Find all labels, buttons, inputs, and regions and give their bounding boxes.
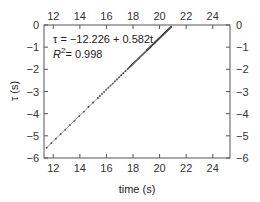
y-tick-label-left: −5 xyxy=(26,130,39,142)
x-tick-label-bottom: 12 xyxy=(47,162,59,174)
x-tick-label-top: 24 xyxy=(207,10,219,22)
x-tick-label-top: 16 xyxy=(100,10,112,22)
y-tick-label-left: −1 xyxy=(26,41,39,53)
x-tick-label-bottom: 20 xyxy=(153,162,165,174)
y-tick-label-left: −6 xyxy=(26,152,39,164)
y-tick-label-right: −3 xyxy=(236,86,249,98)
x-tick-label-bottom: 14 xyxy=(74,162,86,174)
y-tick-label-right: 0 xyxy=(236,19,242,31)
r-symbol: R xyxy=(53,48,61,60)
y-tick-label-left: 0 xyxy=(33,19,39,31)
y-tick-label-left: −4 xyxy=(26,108,39,120)
x-tick-label-top: 20 xyxy=(153,10,165,22)
x-tick-label-bottom: 22 xyxy=(180,162,192,174)
chart: 1212141416161818202022222424 00−1−1−2−2−… xyxy=(0,0,260,202)
y-tick-label-right: −2 xyxy=(236,63,249,75)
y-tick-label-right: −6 xyxy=(236,152,249,164)
y-tick-label-right: −4 xyxy=(236,108,249,120)
y-axis-label: τ (s) xyxy=(8,81,20,101)
x-tick-label-bottom: 16 xyxy=(100,162,112,174)
x-tick-label-top: 18 xyxy=(127,10,139,22)
r-squared: R2= 0.998 xyxy=(53,46,102,60)
r-squared-value: = 0.998 xyxy=(65,48,102,60)
x-tick-label-top: 22 xyxy=(180,10,192,22)
y-tick-label-right: −5 xyxy=(236,130,249,142)
y-tick-label-left: −2 xyxy=(26,63,39,75)
y-tick-label-right: −1 xyxy=(236,41,249,53)
x-tick-label-top: 12 xyxy=(47,10,59,22)
x-tick-label-bottom: 18 xyxy=(127,162,139,174)
fit-equation: τ = −12.226 + 0.582t xyxy=(53,33,153,45)
x-tick-label-bottom: 24 xyxy=(207,162,219,174)
x-axis-label: time (s) xyxy=(119,183,156,195)
x-tick-label-top: 14 xyxy=(74,10,86,22)
y-tick-label-left: −3 xyxy=(26,86,39,98)
